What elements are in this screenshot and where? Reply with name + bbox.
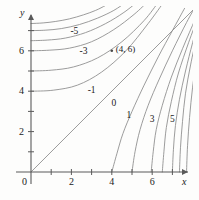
contour-label-0: 0 [111, 99, 116, 109]
x-tick-label-4: 4 [109, 177, 114, 187]
contour-label-1: 1 [127, 111, 132, 121]
contour-label-3: 3 [150, 115, 155, 125]
contour-level-neg1 [31, 1, 164, 91]
contour-level-neg2 [31, 2, 158, 71]
data-point-label-0: (4, 6) [116, 45, 136, 54]
contour-label-neg3: -3 [80, 47, 88, 57]
x-tick-label-6: 6 [150, 177, 155, 187]
contour-plot-figure: (4, 6)-5-3-101350246246xy [0, 0, 199, 200]
x-axis-label: x [182, 177, 186, 187]
x-tick-label-2: 2 [69, 177, 74, 187]
y-axis-arrowhead [28, 14, 34, 20]
data-point-marker-0 [111, 50, 114, 53]
contour-label-neg1: -1 [88, 86, 96, 96]
contour-level-neg6 [31, 1, 113, 23]
plot-canvas [0, 0, 199, 200]
contour-label-5: 5 [170, 115, 175, 125]
contour-level-6 [179, 37, 196, 172]
contour-level-7 [187, 59, 197, 172]
contour-level-neg4 [31, 1, 138, 40]
y-axis-label: y [20, 8, 24, 18]
y-tick-label-6: 6 [19, 46, 24, 56]
contour-curves-group [31, 1, 199, 172]
x-axis-arrowhead [182, 169, 188, 175]
contour-label-neg5: -5 [70, 27, 78, 37]
x-tick-label-0: 0 [22, 177, 27, 187]
y-tick-label-4: 4 [19, 86, 24, 96]
y-tick-label-2: 2 [19, 127, 24, 137]
